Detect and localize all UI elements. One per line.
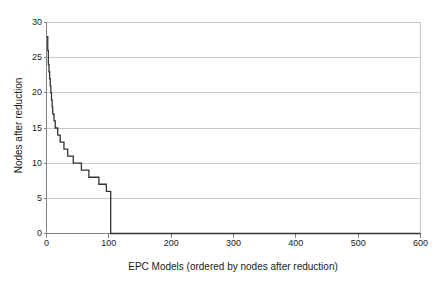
chart-figure: Nodes after reduction 051015202530 01002… — [0, 0, 443, 289]
tick-marks — [44, 23, 421, 238]
data-series-line — [47, 37, 421, 234]
plot-area — [0, 0, 443, 289]
x-axis-title: EPC Models (ordered by nodes after reduc… — [46, 261, 420, 273]
gridlines — [47, 23, 421, 199]
